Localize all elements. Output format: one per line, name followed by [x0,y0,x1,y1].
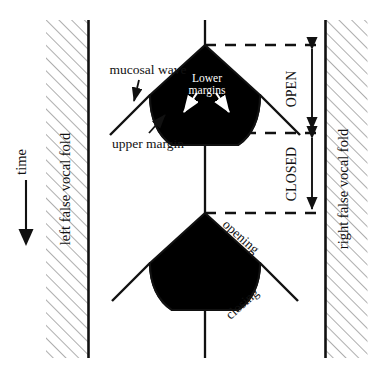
diagram-canvas: left false vocal fold right false vocal … [0,0,384,378]
left-fold-label: left false vocal fold [57,132,73,245]
right-fold-label: right false vocal fold [335,128,351,249]
lower-margins-label-line2: margins [189,84,226,97]
upper-margin-label: upper margin [112,136,184,151]
time-axis-label: time [13,149,29,175]
right-false-vocal-fold: right false vocal fold [326,20,368,358]
glottal-cycle-diagram: left false vocal fold right false vocal … [0,0,384,378]
closed-label: CLOSED [284,147,299,201]
mucosal-wave-label: mucosal wave [110,62,187,77]
lower-margins-label-line1: Lower [192,72,222,84]
left-false-vocal-fold: left false vocal fold [46,20,89,358]
open-label: OPEN [284,71,299,108]
